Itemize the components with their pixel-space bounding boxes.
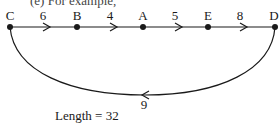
node-label-a: A xyxy=(138,9,147,22)
edge-weight-e-d: 8 xyxy=(237,9,244,22)
node-a xyxy=(140,24,146,30)
node-label-e: E xyxy=(204,9,212,22)
edge-weight-d-c: 9 xyxy=(141,98,148,111)
node-d xyxy=(272,24,278,30)
node-label-c: C xyxy=(6,9,15,22)
node-b xyxy=(74,24,80,30)
node-c xyxy=(7,24,13,30)
node-label-d: D xyxy=(269,9,278,22)
graph-diagram: (e) For example, C B A E D 6 4 5 8 9 Len… xyxy=(0,0,280,129)
edge-weight-c-b: 6 xyxy=(40,9,47,22)
edge-weight-a-e: 5 xyxy=(172,9,179,22)
node-label-b: B xyxy=(73,9,82,22)
node-e xyxy=(205,24,211,30)
edge-weight-b-a: 4 xyxy=(107,9,114,22)
edge-d-c-curve xyxy=(10,27,275,95)
path-length-text: Length = 32 xyxy=(55,109,119,123)
